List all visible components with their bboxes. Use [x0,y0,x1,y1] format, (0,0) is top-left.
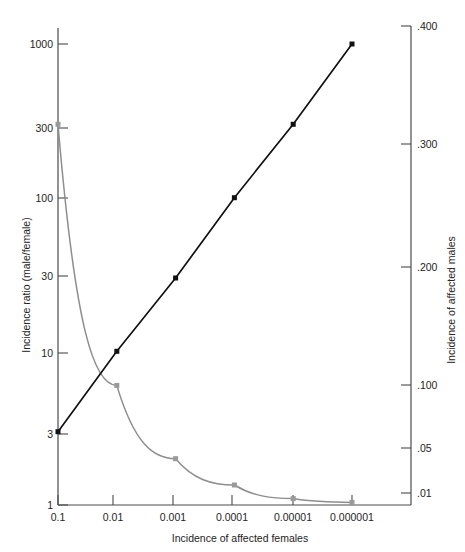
x-tick-label-3: 0.001 [160,511,186,523]
right-tick-label-400: .400 [417,20,438,32]
x-tick-label-5: 0.00001 [274,511,312,523]
data-point [173,276,178,281]
data-point [350,42,355,47]
data-point [56,122,61,127]
series-line-0 [58,124,352,502]
data-point [291,122,296,127]
x-tick-label-1: 0.1 [51,511,66,523]
data-point [114,349,119,354]
left-tick-label-1000: 1000 [30,38,54,50]
right-axis-title: Incidence of affected males [445,236,457,364]
data-point [350,500,355,505]
series-line-1 [58,44,352,432]
left-tick-label-3: 3 [47,428,53,440]
x-tick-label-6: 0.000001 [330,511,374,523]
right-tick-label-05: .05 [417,442,432,454]
right-tick-label-300: .300 [417,138,438,150]
left-axis: 1000 300 100 30 10 3 1 Incidence ratio (… [20,28,68,511]
right-tick-label-100: .100 [417,379,438,391]
data-point [232,195,237,200]
right-axis: .400 .300 .200 .100 .05 .01 Incidence of… [401,20,457,505]
left-tick-label-100: 100 [35,192,53,204]
x-axis: 0.1 0.01 0.001 0.0001 0.00001 0.000001 I… [51,495,411,544]
left-axis-title: Incidence ratio (male/female) [20,217,32,352]
data-point [56,429,61,434]
data-point [173,456,178,461]
series-layer [56,42,355,505]
left-tick-label-1: 1 [47,499,53,511]
x-tick-label-4: 0.0001 [216,511,248,523]
x-axis-title: Incidence of affected females [172,532,308,544]
left-tick-label-10: 10 [41,347,53,359]
data-point [232,483,237,488]
right-tick-label-200: .200 [417,261,438,273]
left-tick-label-30: 30 [41,270,53,282]
data-point [114,383,119,388]
right-tick-label-01: .01 [417,487,432,499]
left-tick-label-300: 300 [35,122,53,134]
chart-svg: 1000 300 100 30 10 3 1 Incidence ratio (… [0,0,465,552]
x-tick-label-2: 0.01 [103,511,124,523]
data-point [291,496,296,501]
chart-figure: 1000 300 100 30 10 3 1 Incidence ratio (… [0,0,465,552]
